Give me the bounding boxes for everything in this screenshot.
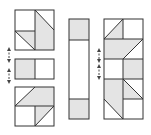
dissection-diagram bbox=[0, 0, 151, 135]
left-bottom-block bbox=[15, 87, 54, 126]
right-figure bbox=[104, 19, 143, 119]
middle-strip bbox=[69, 19, 89, 119]
left-top-block bbox=[15, 10, 54, 50]
left-middle-block bbox=[15, 59, 54, 79]
